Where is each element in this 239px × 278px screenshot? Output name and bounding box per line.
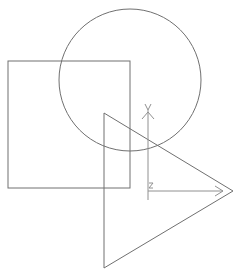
ucs-icon xyxy=(142,104,223,200)
square-shape[interactable] xyxy=(8,61,130,188)
drawing-canvas[interactable] xyxy=(0,0,239,278)
clipped-caption xyxy=(0,270,239,278)
